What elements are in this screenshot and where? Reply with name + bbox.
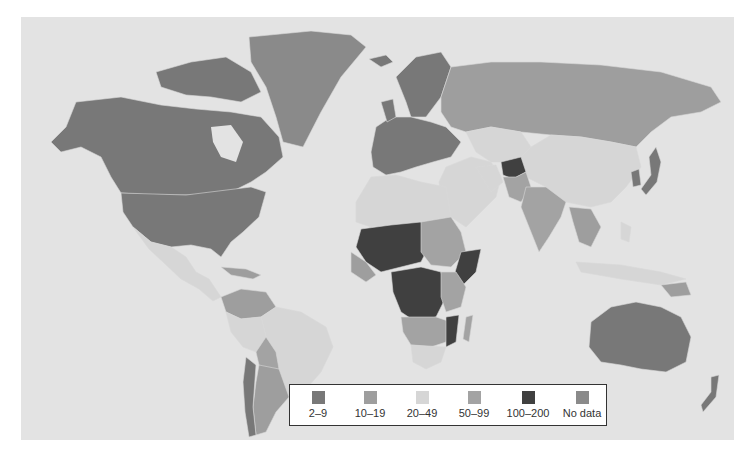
legend-item-10-19: 10–19 <box>340 391 400 419</box>
legend-label: No data <box>552 407 612 419</box>
legend-item-no-data: No data <box>552 391 612 419</box>
region-uk <box>381 99 396 122</box>
world-map-svg <box>21 17 734 440</box>
legend-item-50-99: 50–99 <box>444 391 504 419</box>
region-canada <box>51 97 283 195</box>
legend-swatch <box>576 391 589 404</box>
region-canada-islands <box>156 57 261 102</box>
region-png <box>661 282 691 297</box>
legend-swatch <box>416 391 429 404</box>
legend-label: 10–19 <box>340 407 400 419</box>
region-korea <box>631 169 641 187</box>
region-japan <box>641 147 661 195</box>
legend-label: 100–200 <box>498 407 558 419</box>
legend-swatch <box>312 391 325 404</box>
region-philippines <box>621 222 631 242</box>
region-iceland <box>369 55 393 67</box>
region-india <box>521 187 566 252</box>
region-caribbean <box>221 267 261 279</box>
region-usa <box>121 187 266 257</box>
region-australia <box>589 302 691 372</box>
region-south-africa <box>411 345 446 369</box>
world-map: 2–9 10–19 20–49 50–99 100–200 No data <box>21 17 734 440</box>
region-central-africa <box>391 267 446 322</box>
region-indonesia <box>576 262 686 285</box>
legend-item-2-9: 2–9 <box>288 391 348 419</box>
legend-swatch <box>522 391 535 404</box>
legend-item-100-200: 100–200 <box>498 391 558 419</box>
region-mozambique <box>446 315 459 347</box>
region-madagascar <box>463 315 473 342</box>
legend-swatch <box>364 391 377 404</box>
region-southeast-asia <box>569 207 601 247</box>
legend-swatch <box>468 391 481 404</box>
map-legend: 2–9 10–19 20–49 50–99 100–200 No data <box>289 384 607 426</box>
region-southern-africa <box>401 317 451 347</box>
legend-label: 20–49 <box>392 407 452 419</box>
legend-item-20-49: 20–49 <box>392 391 452 419</box>
legend-label: 50–99 <box>444 407 504 419</box>
region-new-zealand <box>701 375 719 412</box>
legend-label: 2–9 <box>288 407 348 419</box>
